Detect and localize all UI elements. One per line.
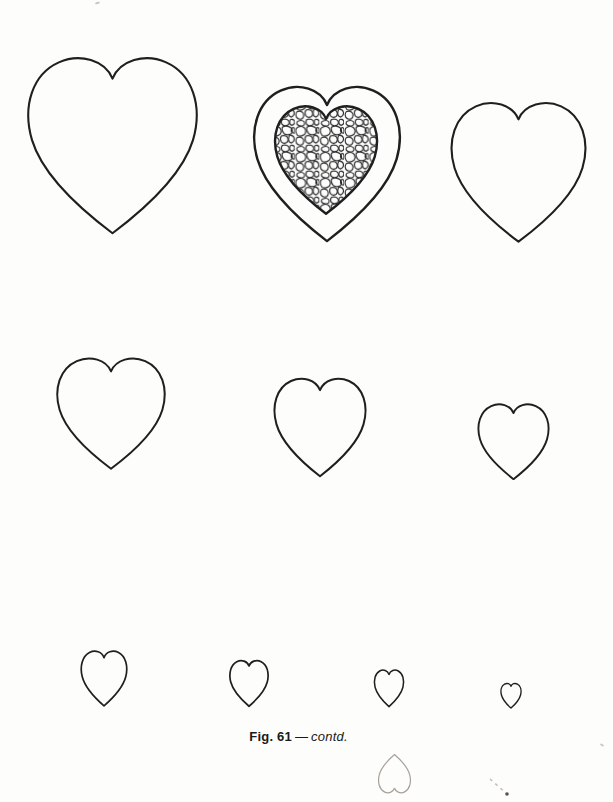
inner-heart-crackle-fill	[275, 106, 377, 214]
figure-number: Fig. 61	[249, 729, 292, 744]
heart-outline-tiny	[373, 668, 405, 708]
heart-outline-smaller	[228, 658, 270, 708]
heart-outline-medium-large	[52, 352, 170, 473]
caption-separator: —	[292, 729, 311, 744]
scan-speck	[95, 1, 100, 4]
scanned-book-page: Fig. 61—contd.	[0, 0, 613, 802]
heart-double-outline-crackle	[247, 78, 407, 247]
heart-faint-inverted	[377, 753, 412, 795]
heart-outline-small	[79, 648, 129, 708]
figure-caption: Fig. 61—contd.	[0, 729, 605, 744]
heart-outline-tiniest	[500, 682, 522, 709]
scan-scratch-mark	[488, 777, 512, 799]
heart-outline-medium	[270, 373, 370, 480]
heart-outline-xl	[20, 48, 205, 240]
caption-contd: contd.	[311, 729, 348, 744]
heart-outline-medium-small	[475, 400, 552, 482]
heart-outline-large	[445, 95, 592, 247]
